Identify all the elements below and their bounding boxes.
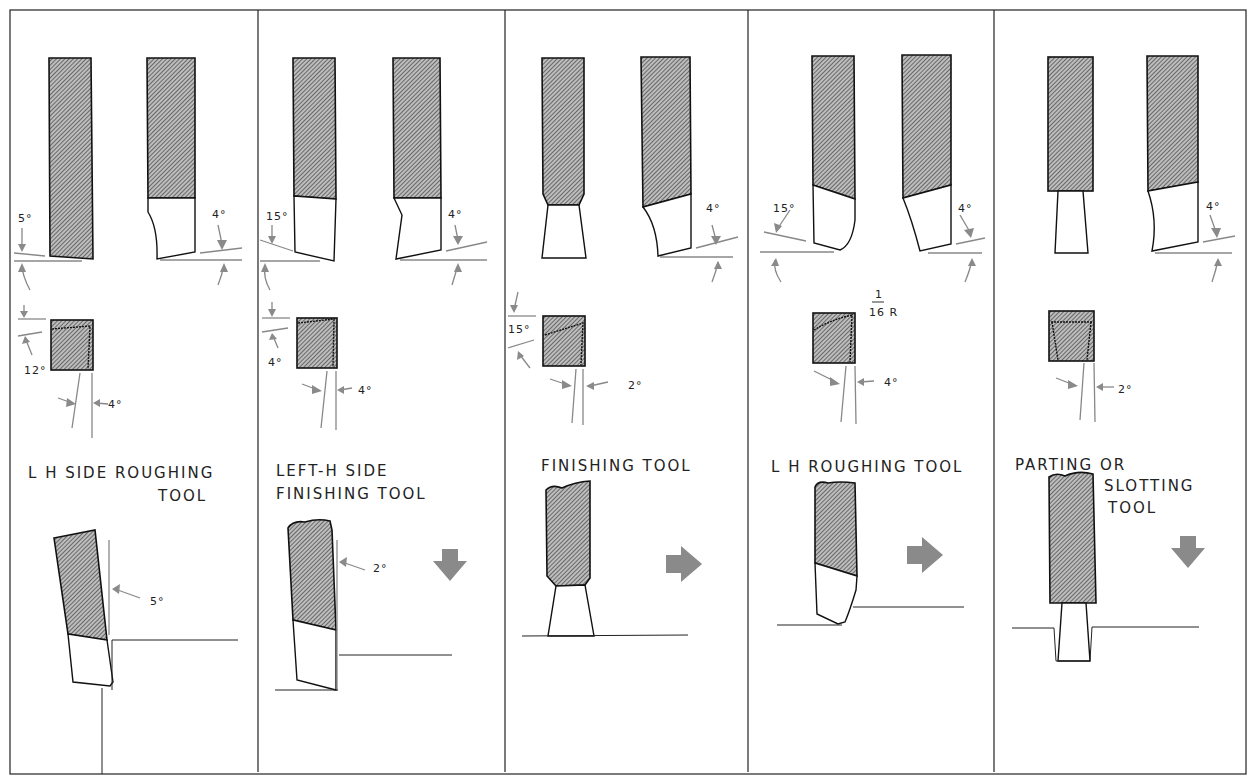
angle-label: 15° <box>508 323 531 336</box>
angle-label: 4° <box>212 208 227 221</box>
angle-label: 5° <box>18 212 33 225</box>
panel-title: FINISHING TOOL <box>541 457 692 475</box>
panel-title: SLOTTING <box>1104 477 1194 495</box>
angle-label: 4° <box>448 208 463 221</box>
angle-label: 12° <box>24 364 47 377</box>
tool-grinding-diagram: 5° 4° 12° 4° L H SIDE ROUGHING TOOL 5° <box>0 0 1249 781</box>
angle-label: 15° <box>773 202 796 215</box>
panel-title: LEFT-H SIDE <box>276 462 388 480</box>
panel-title: L H ROUGHING TOOL <box>771 458 963 476</box>
panel-left-h-side-finishing: 15° 4° 4° 4° LEFT-H SIDE FINISHING TOOL … <box>260 58 487 690</box>
angle-label: 2° <box>1118 383 1133 396</box>
panel-title: TOOL <box>157 487 207 505</box>
panel-title: TOOL <box>1107 499 1157 517</box>
nose-radius-label: 16 R <box>869 306 898 319</box>
panel-lh-side-roughing: 5° 4° 12° 4° L H SIDE ROUGHING TOOL 5° <box>14 58 242 774</box>
tool-side-view-left <box>49 58 93 259</box>
angle-label: 4° <box>958 202 973 215</box>
angle-label: 5° <box>150 595 165 608</box>
angle-label: 4° <box>268 356 283 369</box>
angle-label: 4° <box>108 398 123 411</box>
feed-arrow-right-icon <box>907 537 943 573</box>
angle-label: 4° <box>884 376 899 389</box>
panel-title: PARTING OR <box>1015 456 1126 474</box>
feed-arrow-right-icon <box>666 546 702 582</box>
panel-title: FINISHING TOOL <box>276 485 427 503</box>
tool-side-view-right <box>147 58 195 198</box>
feed-arrow-down-icon <box>433 549 467 581</box>
nose-radius-label: 1 <box>875 288 883 301</box>
tool-end-view <box>51 320 93 370</box>
angle-label: 2° <box>628 379 643 392</box>
angle-label: 15° <box>266 210 289 223</box>
panel-title: L H SIDE ROUGHING <box>28 464 214 482</box>
angle-label: 4° <box>1206 200 1221 213</box>
angle-label: 2° <box>373 562 388 575</box>
angle-label: 4° <box>706 202 721 215</box>
panel-lh-roughing-tool: 15° 4° 1 16 R 4° L H ROUGHING TOOL <box>760 55 985 625</box>
panel-finishing-tool: 4° 15° 2° FINISHING TOOL <box>508 57 738 636</box>
feed-arrow-down-icon <box>1171 536 1205 568</box>
angle-label: 4° <box>358 384 373 397</box>
panel-parting-slotting-tool: 4° 2° PARTING OR SLOTTING TOOL <box>1012 56 1235 661</box>
